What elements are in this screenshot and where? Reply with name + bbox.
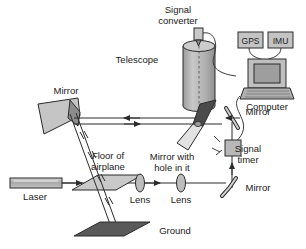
mirror-lower-right-assembly bbox=[222, 178, 236, 196]
scanning-mirror-assembly bbox=[38, 98, 80, 134]
laser-body bbox=[10, 178, 62, 188]
mirror-upper-right-assembly bbox=[226, 108, 240, 128]
mirror-lower-right-highlight bbox=[222, 178, 236, 196]
gps-box: GPS bbox=[238, 32, 263, 48]
lens-right-label: Lens bbox=[171, 194, 192, 205]
lens-left-shape bbox=[136, 174, 145, 192]
gps-to-computer-wire bbox=[249, 48, 264, 60]
telescope-label: Telescope bbox=[116, 54, 159, 65]
signal-timer-label-line1: Signal bbox=[235, 143, 261, 154]
imu-box: IMU bbox=[268, 32, 293, 48]
computer-screen bbox=[254, 64, 280, 83]
signal-converter-label-line2: converter bbox=[158, 15, 198, 26]
ground-plane bbox=[74, 222, 150, 236]
lens-left-label: Lens bbox=[130, 194, 151, 205]
ground-assembly bbox=[74, 222, 150, 236]
laser-assembly bbox=[10, 178, 62, 188]
imu-to-computer-wire bbox=[266, 48, 281, 60]
diagram-canvas: Signal converter Telescope GPS IMU Compu… bbox=[0, 0, 306, 249]
gps-label: GPS bbox=[242, 36, 260, 46]
laser-label: Laser bbox=[23, 191, 47, 202]
lidar-system-diagram: Signal converter Telescope GPS IMU Compu… bbox=[0, 0, 306, 249]
imu-label: IMU bbox=[273, 36, 289, 46]
signal-converter-box bbox=[194, 28, 203, 40]
ground-label: Ground bbox=[159, 225, 191, 236]
lens-right-shape bbox=[177, 174, 186, 192]
mirror-with-hole-label-line2: hole in it bbox=[154, 162, 190, 173]
signal-timer-label-line2: timer bbox=[237, 154, 258, 165]
floor-label-line1: Floor of bbox=[92, 150, 125, 161]
mirror-right-upper-label: Mirror bbox=[246, 106, 271, 117]
mirror-with-hole-lower-blade bbox=[177, 124, 203, 150]
mirror-right-lower-label: Mirror bbox=[246, 182, 271, 193]
mirror-with-hole-label-line1: Mirror with bbox=[150, 151, 194, 162]
timer-tick-2 bbox=[212, 148, 220, 152]
signal-converter-label-line1: Signal bbox=[165, 4, 191, 15]
computer-assembly bbox=[240, 59, 294, 99]
mirror-top-left-label: Mirror bbox=[54, 85, 79, 96]
timer-tick-1 bbox=[214, 136, 220, 142]
floor-label-line2: airplane bbox=[91, 161, 125, 172]
computer-keyboard bbox=[240, 88, 294, 99]
mirror-hole bbox=[195, 121, 202, 126]
